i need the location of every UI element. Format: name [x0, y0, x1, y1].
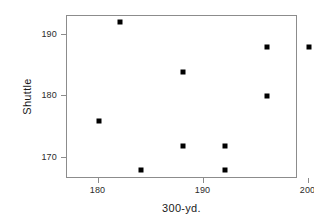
data-point	[222, 143, 227, 148]
x-tick-label: 190	[195, 185, 211, 195]
y-tick-label: 180	[41, 90, 57, 100]
y-tick	[61, 95, 66, 96]
data-point	[264, 44, 269, 49]
data-point	[180, 143, 185, 148]
data-point	[306, 44, 311, 49]
data-point	[180, 69, 185, 74]
x-tick-label: 200	[300, 185, 314, 195]
y-tick-label: 170	[41, 152, 57, 162]
data-point	[138, 168, 143, 173]
x-tick	[308, 178, 309, 183]
x-tick-label: 180	[90, 185, 106, 195]
y-tick	[61, 157, 66, 158]
data-point	[264, 94, 269, 99]
y-axis-label: Shuttle	[18, 15, 36, 178]
data-point	[117, 20, 122, 25]
scatter-plot-figure: 180190200 170180190 300-yd. Shuttle	[0, 0, 314, 223]
y-tick	[61, 34, 66, 35]
y-tick-label: 190	[41, 29, 57, 39]
data-point	[96, 118, 101, 123]
plot-frame	[66, 15, 297, 178]
x-tick	[98, 178, 99, 183]
plot-area	[67, 16, 296, 177]
x-tick	[203, 178, 204, 183]
x-axis-label: 300-yd.	[66, 202, 297, 214]
data-point	[222, 168, 227, 173]
